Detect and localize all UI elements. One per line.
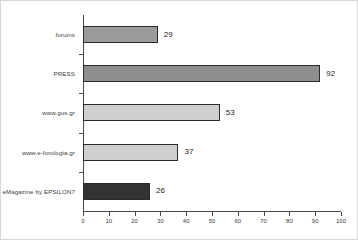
bar-row: 26 — [83, 172, 341, 211]
y-axis-tick — [79, 172, 83, 173]
category-axis-labels: forumsPRESSwww.gus.grwww.e-forologia.gre… — [1, 15, 79, 211]
x-axis-tick — [238, 212, 239, 216]
bar-value-label: 37 — [184, 148, 193, 156]
y-axis-tick — [79, 133, 83, 134]
category-label: www.e-forologia.gr — [22, 133, 75, 172]
category-label: eMagazine by EPSILON7 — [2, 172, 75, 211]
bar-value-label: 53 — [226, 109, 235, 117]
y-axis-tick — [79, 93, 83, 94]
x-axis-tick — [212, 212, 213, 216]
x-axis-tick-label: 0 — [81, 218, 84, 224]
bar-value-label: 29 — [164, 31, 173, 39]
bar-value-label: 92 — [326, 70, 335, 78]
x-axis-tick-label: 10 — [105, 218, 112, 224]
x-axis-tick — [264, 212, 265, 216]
bar — [83, 183, 150, 200]
x-axis-tick — [160, 212, 161, 216]
bar-value-label: 26 — [156, 187, 165, 195]
x-axis-tick-label: 70 — [260, 218, 267, 224]
bar-row: 53 — [83, 93, 341, 132]
x-axis-tick-label: 60 — [234, 218, 241, 224]
x-axis-tick-label: 30 — [157, 218, 164, 224]
bar-row: 37 — [83, 133, 341, 172]
bar-row: 29 — [83, 15, 341, 54]
x-axis-tick — [135, 212, 136, 216]
x-axis-tick-label: 20 — [131, 218, 138, 224]
y-axis-tick — [79, 54, 83, 55]
bar — [83, 104, 220, 121]
category-label: www.gus.gr — [42, 93, 75, 132]
bar-row: 92 — [83, 54, 341, 93]
bar — [83, 26, 158, 43]
x-axis-tick — [315, 212, 316, 216]
x-axis-tick-label: 40 — [183, 218, 190, 224]
x-axis-tick-label: 50 — [209, 218, 216, 224]
x-axis-tick — [83, 212, 84, 216]
bar — [83, 144, 178, 161]
x-axis-tick — [341, 212, 342, 216]
x-axis-tick-label: 90 — [312, 218, 319, 224]
x-axis-tick-label: 100 — [336, 218, 346, 224]
bar-chart: forumsPRESSwww.gus.grwww.e-forologia.gre… — [0, 0, 358, 240]
category-label: forums — [55, 15, 75, 54]
x-axis-tick — [186, 212, 187, 216]
category-label: PRESS — [54, 54, 75, 93]
x-axis-tick — [289, 212, 290, 216]
bar — [83, 65, 320, 82]
x-axis-tick-label: 80 — [286, 218, 293, 224]
bars-layer: 2992533726 — [83, 15, 341, 211]
x-axis-tick — [109, 212, 110, 216]
